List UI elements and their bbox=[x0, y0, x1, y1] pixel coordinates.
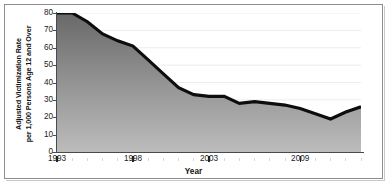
y-axis-tick-label: 50 bbox=[35, 61, 53, 69]
y-axis-tick-mark bbox=[53, 48, 57, 49]
y-axis-tick-label: 20 bbox=[35, 113, 53, 121]
y-axis-tick-label: 80 bbox=[35, 9, 53, 17]
y-axis-tick-label: 70 bbox=[35, 26, 53, 34]
x-axis-tick-label: 1998 bbox=[124, 155, 142, 163]
chart-figure: Adjusted Victimization Rate per 1,000 Pe… bbox=[0, 0, 387, 183]
y-axis-tick-label: 40 bbox=[35, 78, 53, 86]
x-axis-title: Year bbox=[0, 167, 387, 176]
y-axis-tick-label: 30 bbox=[35, 96, 53, 104]
area-chart-svg bbox=[57, 13, 361, 152]
y-axis-tick-mark bbox=[53, 83, 57, 84]
y-axis-tick-labels: 80706050403020100 bbox=[33, 13, 53, 152]
y-axis-tick-mark bbox=[53, 152, 57, 153]
y-axis-tick-mark bbox=[53, 30, 57, 31]
y-axis-tick-label: 10 bbox=[35, 131, 53, 139]
x-axis-line bbox=[52, 152, 364, 153]
x-axis-tick-label: 1993 bbox=[48, 155, 66, 163]
y-axis-tick-label: 60 bbox=[35, 44, 53, 52]
x-axis-tick-label: 2009 bbox=[291, 155, 309, 163]
y-axis-tick-mark bbox=[53, 100, 57, 101]
x-axis-tick-labels: 1993199820032009 bbox=[57, 155, 361, 167]
y-axis-tick-mark bbox=[53, 117, 57, 118]
y-axis-tick-mark bbox=[53, 13, 57, 14]
y-axis-title-line-1: Adjusted Victimization Rate bbox=[14, 38, 24, 130]
y-axis-tick-mark bbox=[53, 135, 57, 136]
plot-area bbox=[57, 13, 361, 152]
x-axis-tick-label: 2003 bbox=[200, 155, 218, 163]
y-axis-tick-mark bbox=[53, 65, 57, 66]
